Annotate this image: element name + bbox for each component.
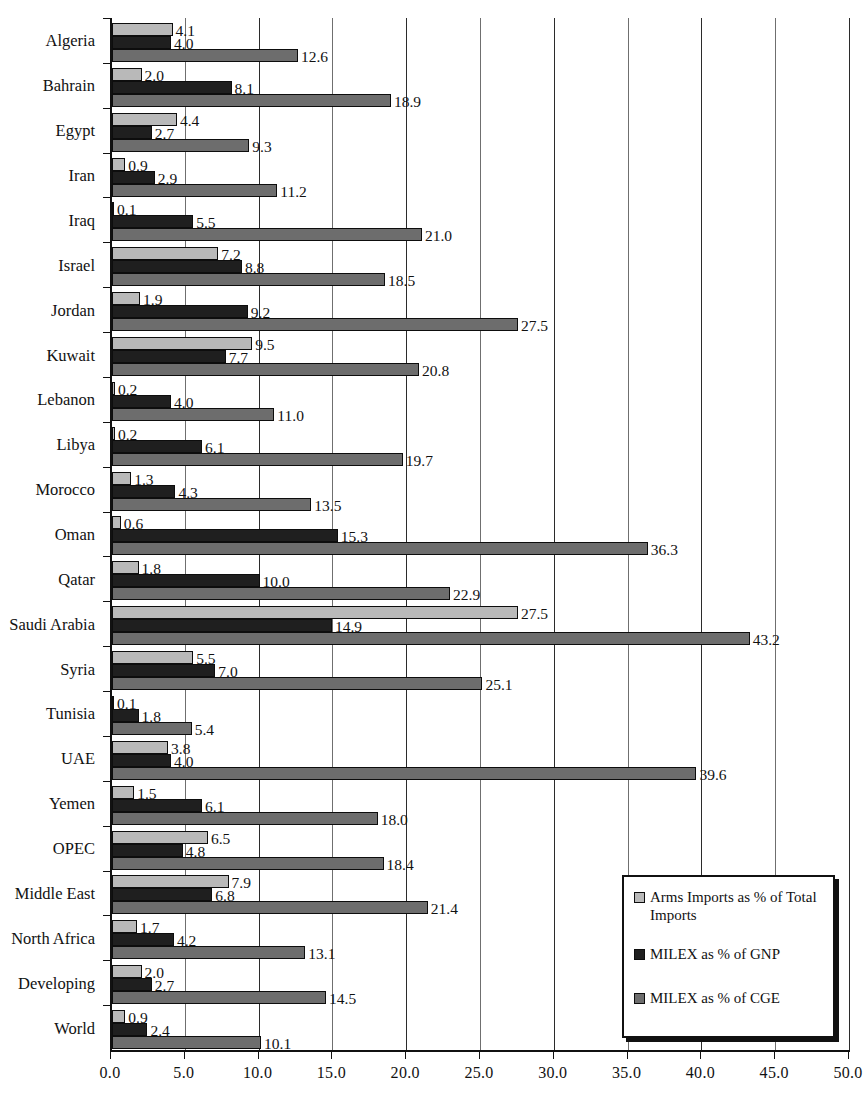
chart-category-row: UAE3.84.039.6 <box>0 736 857 781</box>
bar-tunisia-series1 <box>112 709 139 722</box>
category-label-jordan: Jordan <box>0 301 95 321</box>
bar-value-label: 9.5 <box>255 338 274 351</box>
bar-bahrain-series1 <box>112 81 232 94</box>
bar-syria-series0 <box>112 651 193 664</box>
legend-swatch-icon <box>634 949 645 960</box>
legend-item-0[interactable]: Arms Imports as % of Total Imports <box>634 889 825 924</box>
chart-category-row: Saudi Arabia27.514.943.2 <box>0 601 857 646</box>
bar-syria-series2 <box>112 677 482 690</box>
bar-world-series2 <box>112 1036 261 1049</box>
x-axis-tick <box>479 1052 480 1059</box>
category-label-algeria: Algeria <box>0 31 95 51</box>
bar-egypt-series0 <box>112 113 177 126</box>
bar-value-label: 36.3 <box>651 543 678 556</box>
chart-category-row: OPEC6.54.818.4 <box>0 826 857 871</box>
x-axis-tick-label: 15.0 <box>317 1064 346 1082</box>
bar-value-label: 13.1 <box>308 947 335 960</box>
category-label-morocco: Morocco <box>0 480 95 500</box>
y-axis-tick <box>103 646 110 647</box>
bar-jordan-series1 <box>112 305 248 318</box>
bar-israel-series2 <box>112 273 385 286</box>
chart-category-row: Bahrain2.08.118.9 <box>0 63 857 108</box>
bar-value-label: 11.0 <box>277 409 304 422</box>
x-axis-tick <box>553 1052 554 1059</box>
chart-category-row: Lebanon0.24.011.0 <box>0 377 857 422</box>
y-axis-tick <box>103 287 110 288</box>
bar-egypt-series2 <box>112 139 249 152</box>
bar-bahrain-series0 <box>112 68 142 81</box>
bar-value-label: 20.8 <box>422 364 449 377</box>
bar-bahrain-series2 <box>112 94 391 107</box>
bar-saudi-arabia-series1 <box>112 619 332 632</box>
bar-egypt-series1 <box>112 126 152 139</box>
category-label-uae: UAE <box>0 749 95 769</box>
bar-value-label: 18.5 <box>388 274 415 287</box>
category-label-developing: Developing <box>0 974 95 994</box>
legend-item-1[interactable]: MILEX as % of GNP <box>634 946 825 964</box>
x-axis: 0.05.010.015.020.025.030.035.040.045.050… <box>110 1050 850 1052</box>
bar-value-label: 43.2 <box>753 633 780 646</box>
chart-category-row: Iran0.92.911.2 <box>0 153 857 198</box>
bar-iran-series2 <box>112 184 277 197</box>
bar-north-africa-series0 <box>112 920 137 933</box>
x-axis-tick-label: 10.0 <box>243 1064 272 1082</box>
y-axis-tick <box>103 422 110 423</box>
bar-value-label: 4.4 <box>180 114 199 127</box>
legend-swatch-icon <box>634 892 645 903</box>
bar-morocco-series0 <box>112 472 131 485</box>
x-axis-tick <box>110 1052 111 1059</box>
chart-category-row: Yemen1.56.118.0 <box>0 781 857 826</box>
bar-kuwait-series2 <box>112 363 419 376</box>
legend-label: Arms Imports as % of Total Imports <box>650 889 825 924</box>
bar-opec-series1 <box>112 844 183 857</box>
category-label-egypt: Egypt <box>0 121 95 141</box>
bar-value-label: 13.5 <box>314 499 341 512</box>
bar-value-label: 5.4 <box>195 723 214 736</box>
y-axis-tick <box>103 153 110 154</box>
legend-item-2[interactable]: MILEX as % of CGE <box>634 990 825 1008</box>
bar-uae-series2 <box>112 767 696 780</box>
x-axis-tick <box>700 1052 701 1059</box>
y-axis-tick <box>103 332 110 333</box>
chart-category-row: Oman0.615.336.3 <box>0 512 857 557</box>
x-axis-tick-label: 45.0 <box>760 1064 789 1082</box>
y-axis-tick <box>103 871 110 872</box>
chart-category-row: Tunisia0.11.85.4 <box>0 691 857 736</box>
chart-category-row: Libya0.26.119.7 <box>0 422 857 467</box>
bar-value-label: 19.7 <box>406 454 433 467</box>
y-axis-tick <box>103 781 110 782</box>
legend-label: MILEX as % of CGE <box>650 990 780 1008</box>
x-axis-tick <box>627 1052 628 1059</box>
bar-iraq-series2 <box>112 228 422 241</box>
legend-label: MILEX as % of GNP <box>650 946 780 964</box>
chart-category-row: Israel7.28.818.5 <box>0 242 857 287</box>
x-axis-tick-label: 25.0 <box>464 1064 493 1082</box>
chart-category-row: Algeria4.14.012.6 <box>0 18 857 63</box>
bar-value-label: 12.6 <box>301 50 328 63</box>
category-label-bahrain: Bahrain <box>0 76 95 96</box>
category-label-iran: Iran <box>0 166 95 186</box>
bar-value-label: 39.6 <box>699 768 726 781</box>
bar-tunisia-series2 <box>112 722 192 735</box>
bar-middle-east-series0 <box>112 875 229 888</box>
x-axis-tick-label: 0.0 <box>100 1064 121 1082</box>
bar-opec-series2 <box>112 857 384 870</box>
y-axis-tick <box>103 63 110 64</box>
y-axis-tick <box>103 736 110 737</box>
bar-north-africa-series2 <box>112 946 305 959</box>
bar-oman-series2 <box>112 542 648 555</box>
x-axis-tick <box>331 1052 332 1059</box>
category-label-opec: OPEC <box>0 839 95 859</box>
bar-value-label: 14.5 <box>329 992 356 1005</box>
bar-world-series1 <box>112 1023 147 1036</box>
bar-syria-series1 <box>112 664 215 677</box>
bar-world-series0 <box>112 1010 125 1023</box>
bar-middle-east-series1 <box>112 888 212 901</box>
bar-value-label: 10.1 <box>264 1037 291 1050</box>
y-axis-tick <box>103 556 110 557</box>
chart-category-row: Kuwait9.57.720.8 <box>0 332 857 377</box>
bar-developing-series2 <box>112 991 326 1004</box>
category-label-world: World <box>0 1019 95 1039</box>
category-label-kuwait: Kuwait <box>0 346 95 366</box>
bar-yemen-series2 <box>112 812 378 825</box>
